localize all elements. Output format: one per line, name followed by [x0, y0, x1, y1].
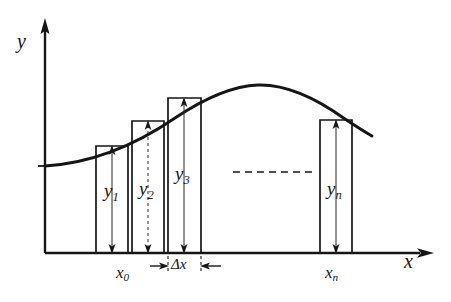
height-label-yn: yn [327, 178, 342, 203]
height-label-yn-subscript: n [335, 188, 341, 202]
axes-group [38, 18, 434, 258]
figure-canvas [0, 0, 451, 302]
function-curve [45, 85, 372, 166]
rectangle-group [96, 97, 352, 254]
x-start-label: x0 [116, 263, 129, 283]
delta-x-label: Δx [171, 256, 186, 273]
height-label-y1-subscript: 1 [112, 190, 118, 204]
x-end-label: xn [325, 263, 338, 283]
height-label-y1: y1 [104, 180, 119, 205]
height-label-y2-subscript: 2 [147, 188, 153, 202]
y-axis-label: y [17, 30, 26, 53]
riemann-sum-figure: y x y1 y2 y3 yn x0 xn Δx [0, 0, 451, 302]
height-label-y3-subscript: 3 [183, 173, 189, 187]
x-start-label-subscript: 0 [124, 271, 130, 283]
x-end-label-subscript: n [333, 271, 339, 283]
height-label-y2: y2 [139, 178, 154, 203]
function-curve-group [45, 85, 372, 166]
height-label-y3: y3 [175, 163, 190, 188]
x-end-label-base: x [325, 263, 333, 282]
x-start-label-base: x [116, 263, 124, 282]
x-axis-label: x [404, 250, 413, 273]
